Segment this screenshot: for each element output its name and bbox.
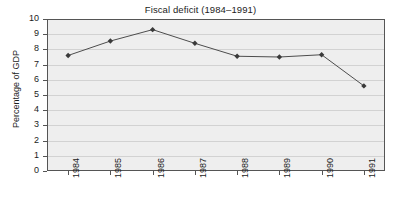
plot-wrapper: 1098765432101984198519861987198819891990… (0, 0, 401, 214)
data-point-marker (277, 54, 282, 59)
data-point-marker (150, 27, 155, 32)
chart-figure: Fiscal deficit (1984–1991) Percentage of… (0, 0, 401, 214)
data-point-marker (234, 54, 239, 59)
data-point-marker (108, 38, 113, 43)
data-point-marker (65, 53, 70, 58)
data-series (0, 0, 401, 214)
series-line (68, 30, 364, 86)
data-point-marker (192, 41, 197, 46)
